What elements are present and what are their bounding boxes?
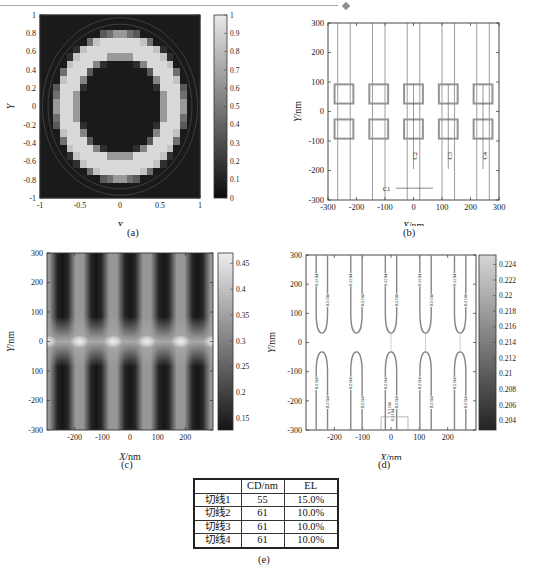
svg-text:0: 0 [298, 338, 302, 347]
decorative-rule [0, 5, 338, 6]
aerial-image [38, 253, 223, 430]
svg-text:0: 0 [39, 337, 43, 346]
svg-text:-200: -200 [308, 165, 324, 175]
svg-text:-0.4: -0.4 [23, 139, 36, 148]
svg-text:-300: -300 [308, 195, 324, 205]
table-cell: 10.0% [284, 507, 338, 521]
table-header-cell: EL [284, 479, 338, 493]
svg-text:0.5: 0.5 [155, 201, 165, 210]
table-header-row: CD/nmEL [194, 479, 338, 493]
table-header-cell: CD/nm [241, 479, 284, 493]
table-cell: 61 [241, 507, 284, 521]
svg-text:-300: -300 [28, 426, 43, 435]
svg-text:0.2194: 0.2194 [394, 293, 399, 306]
svg-text:0.8: 0.8 [230, 47, 240, 56]
svg-text:-300: -300 [287, 426, 302, 435]
table-cell: 15.0% [284, 493, 338, 507]
svg-text:200: 200 [31, 278, 43, 287]
svg-text:0.208: 0.208 [499, 385, 516, 394]
subplot-a-ring-heatmap: -1-0.500.5110.80.60.40.20-0.2-0.4-0.6-0.… [0, 8, 266, 226]
svg-text:0.216: 0.216 [499, 322, 516, 331]
svg-text:0: 0 [411, 202, 415, 212]
svg-text:1: 1 [198, 201, 202, 210]
svg-text:-200: -200 [67, 433, 82, 442]
svg-text:0.15: 0.15 [236, 414, 249, 423]
svg-text:-100: -100 [308, 136, 324, 146]
table-row: 切线26110.0% [194, 507, 338, 521]
cutline-table-body: CD/nmEL切线15515.0%切线26110.0%切线36110.0%切线4… [194, 479, 338, 548]
svg-text:0: 0 [118, 201, 122, 210]
svg-text:0.2194: 0.2194 [463, 396, 468, 409]
svg-text:Y/nm: Y/nm [5, 331, 16, 352]
figure-page: -1-0.500.5110.80.60.40.20-0.2-0.4-0.6-0.… [0, 0, 533, 571]
cutline-table: CD/nmEL切线15515.0%切线26110.0%切线36110.0%切线4… [193, 478, 339, 549]
table-cell: 切线3 [194, 520, 241, 534]
svg-text:Y: Y [5, 102, 16, 109]
svg-text:0.2194: 0.2194 [314, 377, 319, 390]
svg-text:100: 100 [31, 308, 43, 317]
svg-text:200: 200 [179, 433, 191, 442]
caption-b: (b) [403, 227, 415, 238]
caption-e: (e) [258, 554, 270, 565]
svg-text:0.45: 0.45 [236, 259, 249, 268]
svg-text:300: 300 [493, 202, 506, 212]
svg-text:0.2194: 0.2194 [360, 293, 365, 306]
svg-text:100: 100 [413, 433, 425, 442]
svg-text:-0.5: -0.5 [74, 201, 87, 210]
svg-text:100: 100 [152, 433, 164, 442]
svg-text:X/nm: X/nm [402, 220, 425, 226]
svg-text:C1: C1 [383, 185, 391, 192]
svg-text:0.2194: 0.2194 [325, 396, 330, 409]
table-cell: 10.0% [284, 534, 338, 548]
caption-a: (a) [127, 227, 139, 238]
table-row: 切线36110.0% [194, 520, 338, 534]
svg-text:-100: -100 [377, 202, 393, 212]
svg-text:100: 100 [436, 202, 449, 212]
svg-text:0.7: 0.7 [230, 66, 240, 75]
svg-text:0.2194: 0.2194 [463, 293, 468, 306]
svg-text:200: 200 [442, 433, 454, 442]
svg-text:0.212: 0.212 [499, 354, 516, 363]
caption-c: (c) [121, 459, 133, 470]
table-cell: 10.0% [284, 520, 338, 534]
svg-text:C4: C4 [481, 151, 488, 159]
svg-text:0.2194: 0.2194 [383, 273, 388, 286]
svg-text:-100: -100 [287, 367, 302, 376]
svg-text:-200: -200 [287, 397, 302, 406]
svg-text:0.4: 0.4 [26, 66, 36, 75]
svg-text:0.2194: 0.2194 [348, 377, 353, 390]
svg-text:-200: -200 [327, 433, 342, 442]
table-row: 切线46110.0% [194, 534, 338, 548]
svg-text:C3: C3 [446, 152, 453, 160]
svg-text:0.25: 0.25 [236, 362, 249, 371]
svg-text:-200: -200 [349, 202, 365, 212]
svg-text:-0.2: -0.2 [23, 121, 36, 130]
svg-text:0.218: 0.218 [499, 307, 516, 316]
svg-text:300: 300 [311, 18, 324, 28]
table-header-cell [194, 479, 241, 493]
caption-d: (d) [378, 459, 390, 470]
svg-text:0.2194: 0.2194 [383, 377, 388, 390]
table-cell: 61 [241, 520, 284, 534]
table-row: 切线15515.0% [194, 493, 338, 507]
svg-text:0.21: 0.21 [499, 369, 512, 378]
svg-text:0.2194: 0.2194 [429, 396, 434, 409]
svg-text:0.6: 0.6 [230, 84, 240, 93]
svg-text:200: 200 [311, 47, 324, 57]
svg-text:0: 0 [389, 433, 393, 442]
svg-text:200: 200 [290, 280, 302, 289]
contour-lines: 0.21940.21940.21940.21940.21940.21940.21… [314, 255, 469, 430]
svg-text:0.2: 0.2 [230, 157, 240, 166]
svg-text:-100: -100 [95, 433, 110, 442]
svg-text:0.2194: 0.2194 [348, 273, 353, 286]
svg-text:0.214: 0.214 [499, 338, 516, 347]
subplot-d-contour: -200-10001002003002001000-100-200-300X/n… [266, 246, 533, 460]
ring-heatmap-cells [40, 15, 200, 198]
svg-text:-1: -1 [29, 194, 36, 203]
svg-text:0: 0 [320, 106, 324, 116]
svg-text:0.2194: 0.2194 [360, 396, 365, 409]
svg-text:C2: C2 [411, 152, 418, 160]
svg-text:0.2194: 0.2194 [452, 273, 457, 286]
table-cell: 61 [241, 534, 284, 548]
svg-text:0.4: 0.4 [230, 120, 240, 129]
